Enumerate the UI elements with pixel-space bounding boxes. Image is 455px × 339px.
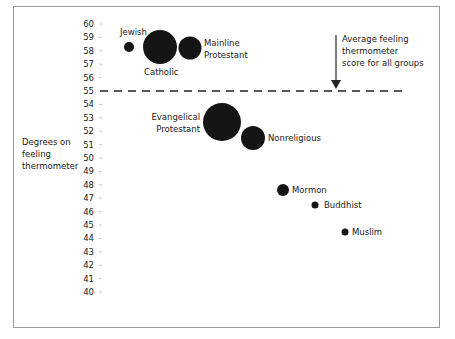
svg-text:Average feeling: Average feeling [342, 34, 409, 44]
y-tick-label: 42 [83, 260, 94, 270]
label-mainline: Mainline [204, 38, 240, 48]
y-tick-label: 49 [83, 166, 94, 176]
label-nonreligious: Nonreligious [268, 133, 322, 143]
label-evangelical: Protestant [156, 124, 200, 134]
y-tick-label: 55 [83, 86, 94, 96]
label-jewish: Jewish [119, 27, 147, 37]
bubble-catholic [143, 30, 177, 64]
average-annotation: Average feeling thermometer score for al… [331, 34, 424, 89]
bubble-chart: 60 59 58 57 56 55 54 53 52 51 50 49 48 4… [0, 0, 455, 339]
y-tick-label: 50 [83, 153, 94, 163]
bubble-mormon [277, 184, 289, 196]
label-buddhist: Buddhist [324, 200, 362, 210]
bubble-evangelical-protestant [203, 103, 241, 141]
y-tick-label: 40 [83, 287, 94, 297]
label-muslim: Muslim [352, 227, 382, 237]
y-tick-label: 58 [83, 46, 94, 56]
y-tick-label: 46 [83, 207, 94, 217]
label-evangelical: Evangelical [151, 112, 200, 122]
y-tick-label: 48 [83, 180, 94, 190]
label-mainline: Protestant [204, 50, 248, 60]
y-tick-label: 54 [83, 99, 94, 109]
bubble-buddhist [312, 202, 319, 209]
bubble-jewish [124, 42, 134, 52]
svg-text:feeling: feeling [22, 149, 51, 159]
y-tick-label: 60 [83, 19, 94, 29]
bubble-muslim [342, 229, 349, 236]
arrow-down-icon [331, 80, 341, 89]
y-tick-label: 52 [83, 126, 94, 136]
svg-text:Degrees on: Degrees on [22, 137, 71, 147]
svg-text:score for all groups: score for all groups [342, 58, 424, 68]
y-tick-label: 43 [83, 247, 94, 257]
label-mormon: Mormon [292, 185, 327, 195]
y-tick-label: 47 [83, 193, 94, 203]
y-tick-label: 51 [83, 140, 94, 150]
y-axis-title: Degrees on feeling thermometer [22, 137, 79, 171]
y-tick-label: 57 [83, 59, 94, 69]
y-tick-label: 41 [83, 274, 94, 284]
svg-text:thermometer: thermometer [22, 161, 79, 171]
label-catholic: Catholic [144, 67, 179, 77]
y-tick-label: 56 [83, 73, 94, 83]
y-tick-label: 45 [83, 220, 94, 230]
y-axis: 60 59 58 57 56 55 54 53 52 51 50 49 48 4… [83, 19, 102, 297]
svg-text:thermometer: thermometer [342, 46, 399, 56]
y-tick-label: 59 [83, 32, 94, 42]
y-tick-label: 53 [83, 113, 94, 123]
bubble-nonreligious [241, 126, 265, 150]
bubble-mainline-protestant [179, 37, 202, 60]
y-tick-label: 44 [83, 233, 94, 243]
